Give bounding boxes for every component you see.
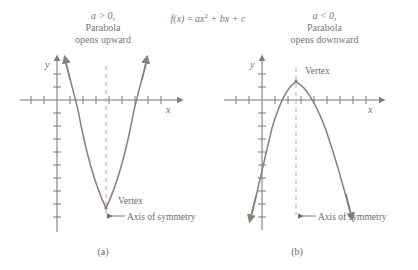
- panel-a-axis-of-symmetry-label: Axis of symmetry: [127, 212, 196, 222]
- panel-b-curve-arrow-right: [346, 194, 351, 214]
- panel-b-vertex-point: [294, 79, 297, 82]
- panel-a-curve-arrow-right: [142, 62, 146, 80]
- panel-a-y-axis-label: y: [44, 59, 50, 70]
- panel-a-curve-arrow-left: [66, 62, 70, 80]
- panel-a-x-axis-label: x: [165, 104, 171, 115]
- panel-b-y-axis-label: y: [249, 59, 255, 70]
- figure-canvas: x y: [0, 0, 418, 270]
- panel-a-vertex-label: Vertex: [118, 196, 143, 206]
- panel-b-axis-of-symmetry-label: Axis of symmetry: [318, 212, 387, 222]
- panel-b-graph: x y: [224, 59, 380, 230]
- panel-b-label: (b): [277, 246, 317, 257]
- panel-a-vertex-point: [104, 206, 107, 209]
- panel-b-x-axis-label: x: [367, 104, 373, 115]
- quadratic-parabola-figure: a > 0, Parabola opens upward f(x) = ax2 …: [0, 0, 418, 270]
- panel-b-vertex-label: Vertex: [305, 66, 330, 76]
- panel-a-graph: x y: [20, 59, 178, 232]
- panel-b-curve-arrow-left: [251, 196, 256, 216]
- panel-a-label: (a): [83, 246, 123, 257]
